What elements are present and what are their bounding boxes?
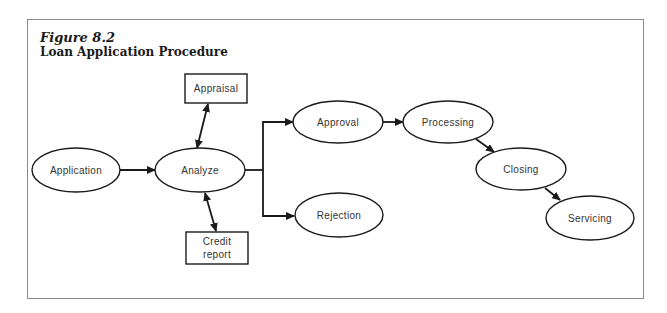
node-closing-label: Closing — [503, 164, 538, 175]
edge-analyze-appraisal — [197, 104, 208, 148]
node-application: Application — [32, 148, 120, 192]
node-analyze: Analyze — [155, 148, 245, 192]
node-analyze-label: Analyze — [181, 165, 219, 176]
node-rejection: Rejection — [295, 193, 383, 237]
node-processing-label: Processing — [422, 117, 474, 128]
edge-branch-rejection — [263, 170, 294, 216]
node-approval-label: Approval — [317, 117, 359, 128]
node-servicing-label: Servicing — [568, 213, 612, 224]
edge-processing-closing — [476, 139, 494, 152]
node-application-label: Application — [50, 165, 102, 176]
node-approval: Approval — [293, 101, 383, 143]
node-rejection-label: Rejection — [317, 210, 361, 221]
node-appraisal: Appraisal — [185, 74, 247, 103]
node-closing: Closing — [476, 148, 566, 190]
flow-diagram: Application Analyze Appraisal Credit rep… — [0, 0, 667, 313]
node-credit-report: Credit report — [186, 232, 248, 264]
node-appraisal-label: Appraisal — [194, 83, 238, 94]
node-credit-report-line2: report — [203, 249, 231, 260]
node-servicing: Servicing — [546, 196, 634, 240]
edge-analyze-credit-report — [205, 193, 216, 231]
edge-closing-servicing — [545, 188, 560, 200]
edge-branch-approval — [263, 122, 293, 170]
node-credit-report-line1: Credit — [203, 236, 231, 247]
node-processing: Processing — [403, 101, 493, 143]
